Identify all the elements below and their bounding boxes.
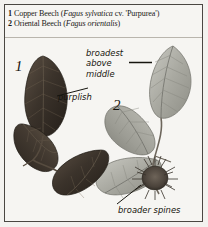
figure-label-1: 1 bbox=[15, 58, 23, 75]
leader-lines bbox=[0, 0, 208, 227]
field-guide-plate: 1 Copper Beech (Fagus sylvatica cv. 'Pur… bbox=[0, 0, 208, 227]
leader-spines bbox=[117, 185, 141, 204]
annotation-line-1: broadest bbox=[86, 48, 146, 58]
figure-label-2: 2 bbox=[113, 97, 121, 114]
annotation-broader-spines: broader spines bbox=[118, 205, 180, 215]
annotation-broadest-above-middle: broadest above middle bbox=[86, 48, 146, 79]
annotation-line-3: middle bbox=[86, 69, 146, 79]
annotation-line-2: above bbox=[86, 58, 146, 68]
annotation-purplish: purplish bbox=[58, 92, 92, 102]
